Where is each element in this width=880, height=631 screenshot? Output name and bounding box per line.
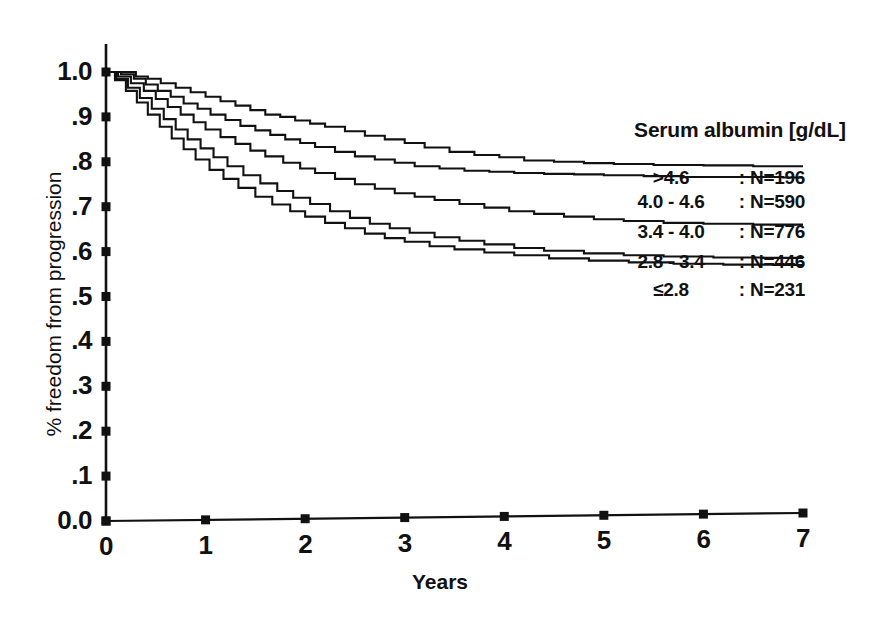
- legend-row: 3.4 - 4.0:N=776: [608, 220, 872, 244]
- y-tick-mark: [102, 202, 111, 211]
- legend-n-label: N=231: [750, 279, 872, 301]
- legend: Serum albumin [g/dL] >4.6:N=1964.0 - 4.6…: [608, 118, 872, 142]
- x-tick-mark: [699, 510, 708, 519]
- x-tick-label: 3: [375, 528, 435, 559]
- legend-n-label: N=446: [750, 251, 872, 273]
- y-tick-label: .1: [20, 460, 92, 491]
- x-tick-label: 2: [275, 529, 335, 560]
- legend-n-label: N=776: [750, 221, 872, 243]
- legend-range-label: 4.0 - 4.6: [608, 191, 734, 213]
- y-tick-mark: [102, 157, 111, 166]
- legend-separator: :: [734, 279, 750, 301]
- legend-range-label: 3.4 - 4.0: [608, 221, 734, 243]
- y-tick-mark: [102, 112, 111, 121]
- x-axis-line: [106, 513, 803, 521]
- legend-separator: :: [734, 251, 750, 273]
- kaplan-meier-figure: 0.0.1.2.3.4.5.6.7.8.91.0 01234567 % free…: [0, 0, 880, 631]
- legend-row: >4.6:N=196: [608, 166, 872, 190]
- y-tick-mark: [102, 337, 111, 346]
- legend-n-label: N=196: [750, 167, 872, 189]
- x-tick-label: 5: [574, 525, 634, 556]
- legend-range-label: 2.8 - 3.4: [608, 251, 734, 273]
- legend-range-label: >4.6: [608, 167, 734, 189]
- x-tick-mark: [599, 511, 608, 520]
- x-axis-title: Years: [0, 570, 880, 594]
- x-tick-mark: [400, 513, 409, 522]
- x-tick-label: 6: [673, 524, 733, 555]
- legend-separator: :: [734, 191, 750, 213]
- y-tick-mark: [102, 427, 111, 436]
- x-tick-label: 0: [76, 531, 136, 562]
- x-tick-mark: [201, 515, 210, 524]
- y-tick-mark: [102, 382, 111, 391]
- y-tick-mark: [102, 292, 111, 301]
- legend-title: Serum albumin [g/dL]: [608, 118, 872, 142]
- x-tick-label: 7: [773, 523, 833, 554]
- legend-separator: :: [734, 221, 750, 243]
- legend-range-label: ≤2.8: [608, 279, 734, 301]
- y-tick-label: 1.0: [20, 56, 92, 87]
- x-tick-mark: [102, 517, 111, 526]
- legend-row: 2.8 - 3.4:N=446: [608, 250, 872, 274]
- x-tick-mark: [799, 509, 808, 518]
- y-axis-title: % freedom from progression: [42, 154, 66, 454]
- x-tick-mark: [500, 512, 509, 521]
- legend-separator: :: [734, 167, 750, 189]
- x-tick-label: 4: [474, 526, 534, 557]
- x-tick-mark: [301, 514, 310, 523]
- legend-n-label: N=590: [750, 191, 872, 213]
- y-tick-mark: [102, 472, 111, 481]
- x-tick-label: 1: [176, 530, 236, 561]
- y-tick-label: .9: [20, 101, 92, 132]
- y-tick-mark: [102, 247, 111, 256]
- legend-row: ≤2.8:N=231: [608, 278, 872, 302]
- legend-row: 4.0 - 4.6:N=590: [608, 190, 872, 214]
